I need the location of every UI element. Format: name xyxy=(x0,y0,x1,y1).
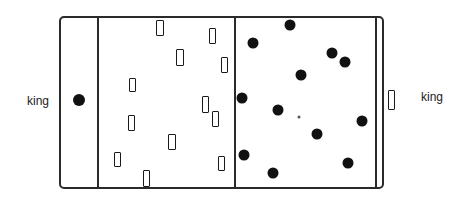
dot-piece-icon xyxy=(312,129,323,140)
dot-piece-icon xyxy=(357,116,368,127)
rectangle-piece-icon xyxy=(128,115,135,131)
rectangle-piece-icon xyxy=(129,78,136,92)
right-king-label: king xyxy=(421,91,443,103)
dot-piece-icon xyxy=(239,150,250,161)
rectangle-piece-icon xyxy=(143,170,150,187)
rectangle-piece-icon xyxy=(176,49,184,66)
rectangle-piece-icon xyxy=(168,134,176,150)
dot-piece-icon xyxy=(296,70,307,81)
rectangle-piece-icon xyxy=(218,156,225,171)
dot-piece-icon xyxy=(327,48,338,59)
rectangle-piece-icon xyxy=(156,20,164,36)
left-king-zone-divider xyxy=(97,16,99,189)
rectangle-piece-icon xyxy=(209,28,216,44)
dot-piece-icon xyxy=(285,20,296,31)
center-line xyxy=(234,16,236,189)
right-king-zone-divider xyxy=(375,16,377,189)
dot-piece-icon xyxy=(268,168,279,179)
right-king-rectangle-icon xyxy=(388,90,395,110)
dot-piece-icon xyxy=(273,105,284,116)
left-king-label: king xyxy=(27,95,49,107)
rectangle-piece-icon xyxy=(212,111,219,127)
center-mark-icon xyxy=(298,116,301,119)
dot-piece-icon xyxy=(237,93,248,104)
rectangle-piece-icon xyxy=(221,57,228,73)
rectangle-piece-icon xyxy=(114,152,121,167)
rectangle-piece-icon xyxy=(202,96,209,113)
dot-piece-icon xyxy=(340,57,351,68)
left-king-dot-icon xyxy=(73,94,85,106)
dot-piece-icon xyxy=(248,38,259,49)
dot-piece-icon xyxy=(343,158,354,169)
